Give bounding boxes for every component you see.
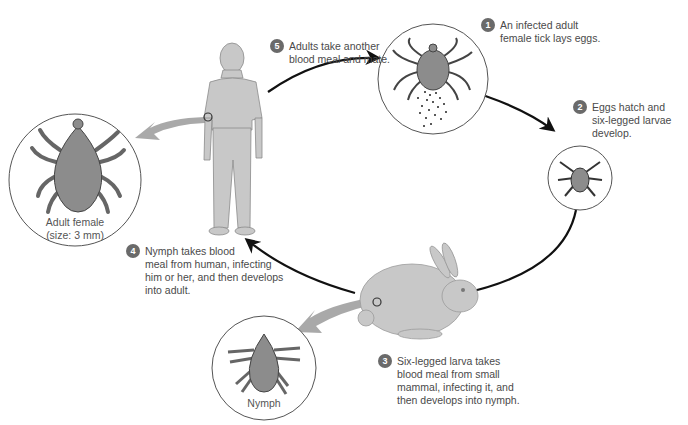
step-1-badge: 1: [481, 18, 495, 32]
step-4-text: 4 Nymph takes blood meal from human, inf…: [145, 245, 283, 297]
step-3-badge: 3: [378, 354, 392, 368]
adult-female-label: Adult female (size: 3 mm): [35, 216, 115, 242]
step-5-text: 5 Adults take another blood meal and mat…: [289, 40, 390, 66]
rabbit-host: [358, 241, 478, 339]
egg-laying-tick: [378, 24, 488, 134]
larva: [548, 146, 612, 210]
step-4-badge: 4: [126, 244, 140, 258]
step-3-text: 3 Six-legged larva takes blood meal from…: [397, 355, 520, 407]
nymph-label: Nymph: [234, 397, 294, 410]
pointer-arrows: [135, 117, 372, 333]
step-2-badge: 2: [573, 100, 587, 114]
step-2-text: 2 Eggs hatch and six-legged larvae devel…: [592, 101, 671, 140]
step-5-badge: 5: [270, 39, 284, 53]
step-1-text: 1 An infected adult female tick lays egg…: [500, 19, 600, 45]
human-host: [204, 43, 262, 235]
pointer-arrow-to-adult-inset: [135, 117, 205, 140]
